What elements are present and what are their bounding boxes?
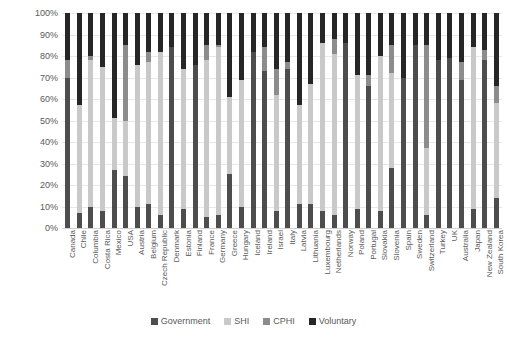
bar-stack [135,13,140,228]
bar-segment-voluntary [181,13,186,69]
bar-stack [447,13,452,228]
bar-stack [355,13,360,228]
bar-segment-shi [320,43,325,211]
bar-column[interactable] [108,13,120,228]
stacked-bar-chart: % of current health expenditure 100%90%8… [0,0,507,342]
bar-segment-voluntary [88,13,93,56]
bar-column[interactable] [155,13,167,228]
bar-stack [262,13,267,228]
legend-item-cphi[interactable]: CPHI [263,316,295,326]
bar-column[interactable] [97,13,109,228]
bar-segment-voluntary [65,13,70,60]
bar-segment-government [401,78,406,229]
bar-column[interactable] [456,13,468,228]
bar-segment-government [146,204,151,228]
bar-column[interactable] [409,13,421,228]
bar-segment-cphi [482,50,487,61]
bar-column[interactable] [490,13,502,228]
bar-column[interactable] [363,13,375,228]
bar-stack [378,13,383,228]
bar-segment-shi [227,97,232,174]
bar-segment-cphi [332,39,337,54]
bar-column[interactable] [467,13,479,228]
bar-segment-voluntary [77,13,82,105]
bar-segment-voluntary [251,13,256,52]
bar-column[interactable] [236,13,248,228]
bar-segment-voluntary [285,13,290,62]
bar-segment-shi [308,84,313,204]
bar-segment-government [494,198,499,228]
bar-column[interactable] [351,13,363,228]
bar-segment-shi [355,75,360,208]
bar-column[interactable] [328,13,340,228]
bar-column[interactable] [120,13,132,228]
x-label-column: Germany [213,230,225,310]
bar-column[interactable] [74,13,86,228]
bar-column[interactable] [479,13,491,228]
bar-column[interactable] [259,13,271,228]
bar-segment-government [320,211,325,228]
bar-column[interactable] [317,13,329,228]
bar-column[interactable] [189,13,201,228]
bar-stack [239,13,244,228]
bar-segment-shi [297,105,302,204]
bar-column[interactable] [340,13,352,228]
bar-segment-shi [112,118,117,170]
bar-segment-voluntary [413,13,418,45]
bar-column[interactable] [375,13,387,228]
y-axis-tick-90pct: 90% [40,30,58,40]
bar-column[interactable] [85,13,97,228]
bar-column[interactable] [433,13,445,228]
bar-stack [100,13,105,228]
bar-stack [436,13,441,228]
legend-item-shi[interactable]: SHI [224,316,249,326]
bar-column[interactable] [62,13,74,228]
x-label-column: South Korea [490,230,502,310]
bar-stack [494,13,499,228]
bar-segment-government [274,211,279,228]
bar-segment-voluntary [216,13,221,45]
x-label-column: Hungary [236,230,248,310]
bar-column[interactable] [201,13,213,228]
bar-column[interactable] [444,13,456,228]
legend-item-government[interactable]: Government [151,316,211,326]
bar-column[interactable] [305,13,317,228]
bar-segment-shi [146,62,151,204]
bar-segment-voluntary [112,13,117,118]
bar-segment-government [436,60,441,228]
bar-segment-voluntary [227,13,232,97]
bar-segment-cphi [204,45,209,60]
bar-stack [413,13,418,228]
bar-stack [65,13,70,228]
legend-item-voluntary[interactable]: Voluntary [309,316,357,326]
bar-column[interactable] [421,13,433,228]
bar-segment-cphi [146,52,151,63]
bar-column[interactable] [386,13,398,228]
bar-segment-government [227,174,232,228]
bar-column[interactable] [282,13,294,228]
bar-column[interactable] [294,13,306,228]
bar-segment-voluntary [424,13,429,45]
bar-column[interactable] [398,13,410,228]
bar-segment-voluntary [239,13,244,80]
bar-column[interactable] [224,13,236,228]
bar-stack [482,13,487,228]
bar-column[interactable] [143,13,155,228]
bar-stack [169,13,174,228]
y-axis-tick-60pct: 60% [40,94,58,104]
bar-column[interactable] [270,13,282,228]
bar-segment-government [204,217,209,228]
bar-segment-voluntary [436,13,441,60]
y-axis-tick-10pct: 10% [40,202,58,212]
bar-column[interactable] [247,13,259,228]
bar-column[interactable] [166,13,178,228]
bar-column[interactable] [131,13,143,228]
bar-segment-shi [424,148,429,215]
bar-segment-voluntary [320,13,325,43]
x-label-column: Lithuania [305,230,317,310]
bar-column[interactable] [213,13,225,228]
x-label-column: Chile [74,230,86,310]
bar-stack [459,13,464,228]
bar-column[interactable] [178,13,190,228]
bar-segment-government [308,204,313,228]
